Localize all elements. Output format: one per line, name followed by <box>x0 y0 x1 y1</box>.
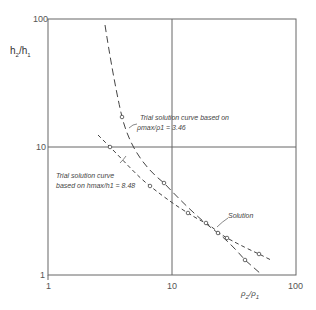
annotation-solution: Solution <box>228 212 253 219</box>
x-tick-10: 10 <box>167 282 177 291</box>
x-tick-1: 1 <box>46 282 51 291</box>
chart-plot <box>0 0 316 310</box>
series-rho-curve <box>105 25 261 274</box>
annotation-rho-line2: ρmax/ρ1 = 3.46 <box>137 124 186 131</box>
annotation-rho-line1: Trial solution curve based on <box>140 114 229 121</box>
y-axis-label: h2/h1 <box>10 46 31 58</box>
markers-h-curve <box>108 145 261 256</box>
y-tick-10: 10 <box>36 143 46 152</box>
x-tick-100: 100 <box>288 282 303 291</box>
x-axis-label: ρ2/ρ1 <box>241 290 259 300</box>
annotation-h-line2: based on hmax/h1 = 8.48 <box>56 182 135 189</box>
annotation-h-line1: Trial solution curve <box>56 172 114 179</box>
series-h-curve <box>98 135 271 260</box>
leader-ann1 <box>129 124 137 128</box>
y-tick-100: 100 <box>33 15 48 24</box>
y-tick-1: 1 <box>40 271 45 280</box>
leader-solution <box>217 218 228 227</box>
